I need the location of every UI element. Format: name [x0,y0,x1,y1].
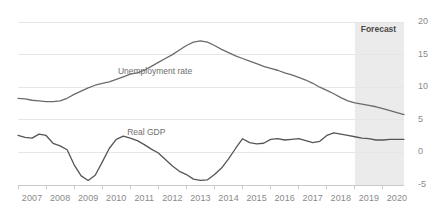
y-axis-tick-label: 15 [418,49,428,59]
y-axis-tick-label: 5 [418,114,423,124]
gridlines-group [18,22,404,185]
series-label-real-gdp: Real GDP [127,127,165,137]
x-axis-ticks-group [18,185,383,189]
forecast-region-label: Forecast [361,24,396,34]
y-axis-tick-label: 0 [418,146,423,156]
series-line-unemployment-rate [18,41,404,115]
series-line-real-gdp [18,133,404,181]
y-axis-tick-label: -5 [418,179,426,189]
forecast-shaded-region [355,22,404,185]
economic-indicators-chart: Forecast Unemployment rate Real GDP 2015… [0,0,446,220]
y-axis-tick-label: 10 [418,81,428,91]
x-axis-tick-label: 2020 [381,193,413,203]
series-label-unemployment-rate: Unemployment rate [118,66,192,76]
series-lines-group [18,41,404,181]
forecast-shading-group [355,22,404,185]
y-axis-tick-label: 20 [418,16,428,26]
